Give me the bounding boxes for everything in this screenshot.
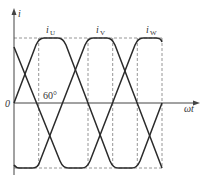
phase-label-w: i W [146, 24, 157, 37]
origin-label: 0 [5, 98, 10, 109]
y-axis-arrow-icon [12, 8, 17, 15]
phase-label-u: i U [46, 24, 55, 37]
x-axis-label: ωt [184, 103, 194, 114]
svg-text:i: i [146, 24, 149, 35]
x-axis-arrow-icon [193, 101, 200, 106]
svg-text:U: U [50, 29, 55, 37]
y-axis-label: i [18, 8, 21, 19]
svg-text:i: i [46, 24, 49, 35]
angle-annotation: 60° [43, 90, 57, 101]
svg-text:V: V [100, 29, 105, 37]
phase-label-v: i V [96, 24, 105, 37]
waveform-diagram: i 0 ωt 60° i U i V i W [0, 0, 201, 176]
svg-text:W: W [150, 29, 157, 37]
svg-text:i: i [96, 24, 99, 35]
